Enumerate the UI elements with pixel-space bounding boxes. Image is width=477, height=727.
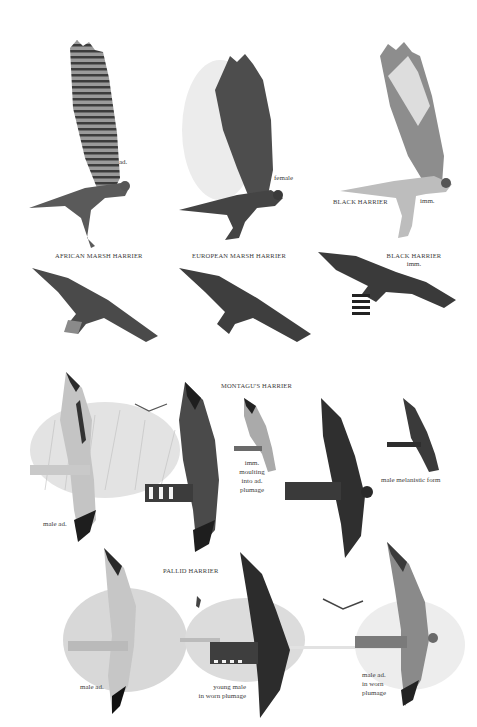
european-marsh-harrier-illustration bbox=[175, 50, 290, 245]
black-harrier-imm-flight bbox=[316, 250, 461, 320]
black-harrier-imm-illustration bbox=[338, 36, 458, 241]
field-guide-plate: ad. female BLACK HARRIER imm. AFRICAN MA… bbox=[0, 0, 477, 727]
montagu-melanistic-illustration bbox=[285, 396, 380, 561]
caption-african-marsh-harrier: AFRICAN MARSH HARRIER bbox=[55, 251, 143, 260]
montagu-male-melanistic-perched bbox=[385, 396, 445, 476]
european-marsh-harrier-flight bbox=[175, 262, 315, 347]
label-black-harrier-perched-imm: imm. bbox=[420, 197, 435, 206]
label-european-female: female bbox=[274, 174, 293, 183]
label-montagu-male-melanistic: male melanistic form bbox=[381, 476, 440, 485]
label-pallid-male-ad: male ad. bbox=[80, 683, 104, 692]
label-african-ad: ad. bbox=[119, 158, 127, 167]
caption-european-marsh-harrier: EUROPEAN MARSH HARRIER bbox=[192, 251, 286, 260]
pallid-distant-harrier-perched bbox=[193, 594, 203, 610]
montagu-male-ad-illustration bbox=[30, 370, 120, 542]
african-marsh-harrier-flight bbox=[28, 262, 163, 347]
label-montagu-male-ad: male ad. bbox=[43, 520, 67, 529]
african-marsh-harrier-illustration bbox=[25, 38, 140, 248]
label-pallid-male-worn: male ad. in worn plumage bbox=[362, 671, 386, 698]
label-montagu-imm-moulting: imm. moulting into ad. plumage bbox=[232, 459, 272, 495]
label-pallid-young-male: young male in worn plumage bbox=[190, 683, 246, 701]
montagu-female-illustration bbox=[145, 380, 235, 555]
label-black-harrier-perched-species: BLACK HARRIER bbox=[333, 197, 388, 206]
